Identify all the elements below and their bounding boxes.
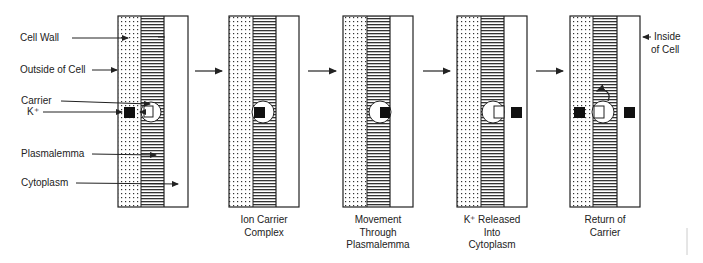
carrier-binding-site-icon	[594, 106, 604, 118]
label-inside-of-cell-line1: Inside	[654, 31, 681, 43]
k-ion-outside-icon	[574, 107, 585, 118]
panel-step-4	[457, 16, 527, 207]
k-ion-inside-icon	[624, 107, 635, 118]
caption-k-released-into-cytoplasm: K⁺ Released Into Cytoplasm	[442, 214, 542, 252]
k-ion-icon	[254, 107, 265, 118]
panel-step-3	[343, 16, 413, 207]
caption-return-of-carrier: Return of Carrier	[555, 214, 655, 239]
label-cell-wall: Cell Wall	[20, 32, 59, 44]
panel-step-5	[570, 16, 640, 207]
carrier-binding-site-icon	[494, 106, 504, 118]
cytoplasm-region	[164, 16, 188, 207]
k-ion-icon	[511, 107, 522, 118]
caption-ion-carrier-complex: Ion Carrier Complex	[214, 214, 314, 239]
label-cytoplasm: Cytoplasm	[21, 177, 68, 189]
k-ion-icon	[380, 107, 390, 118]
k-ion-icon	[124, 107, 135, 118]
caption-movement-through-plasmalemma: Movement Through Plasmalemma	[328, 214, 428, 252]
label-inside-of-cell-line2: of Cell	[651, 44, 679, 56]
panel-step-2	[229, 16, 299, 207]
panel-step-1	[118, 16, 188, 207]
label-outside-of-cell: Outside of Cell	[20, 64, 86, 76]
label-k-ion: K⁺	[27, 106, 39, 118]
label-plasmalemma: Plasmalemma	[21, 148, 84, 160]
carrier-binding-site-icon	[144, 106, 153, 117]
